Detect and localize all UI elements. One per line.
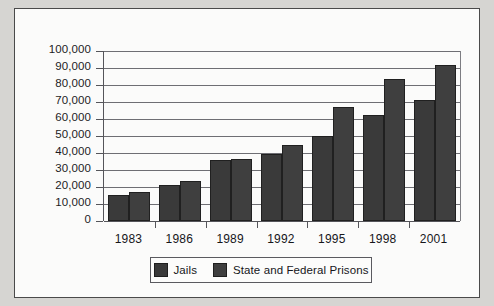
y-tick-label-80000: 80,000 xyxy=(15,77,91,89)
y-tick-mark-30000 xyxy=(96,170,103,171)
y-tick-label-90000: 90,000 xyxy=(15,60,91,72)
bar-jails-1983 xyxy=(108,195,129,221)
y-tick-mark-70000 xyxy=(96,102,103,103)
bar-state-and-federal-prisons-1992 xyxy=(282,145,303,221)
y-tick-label-50000: 50,000 xyxy=(15,128,91,140)
x-tick-mark-5 xyxy=(358,221,359,228)
bar-group-1992 xyxy=(257,51,308,221)
x-tick-label-1998: 1998 xyxy=(357,232,408,246)
y-tick-mark-20000 xyxy=(96,187,103,188)
legend-item-jails: Jails xyxy=(154,263,198,277)
y-tick-mark-100000 xyxy=(96,51,103,52)
bar-state-and-federal-prisons-1986 xyxy=(180,181,201,221)
y-tick-mark-10000 xyxy=(96,204,103,205)
bar-group-1983 xyxy=(104,51,155,221)
x-tick-mark-2 xyxy=(206,221,207,228)
bar-jails-2001 xyxy=(414,100,435,221)
y-tick-label-10000: 10,000 xyxy=(15,196,91,208)
y-tick-label-100000: 100,000 xyxy=(15,43,91,55)
bar-jails-1992 xyxy=(261,154,282,221)
y-tick-mark-40000 xyxy=(96,153,103,154)
bar-state-and-federal-prisons-1995 xyxy=(333,107,354,221)
legend-swatch-state-and-federal-prisons xyxy=(213,263,227,277)
y-tick-label-40000: 40,000 xyxy=(15,145,91,157)
y-tick-mark-60000 xyxy=(96,119,103,120)
legend-swatch-jails xyxy=(154,263,168,277)
x-tick-label-1983: 1983 xyxy=(103,232,154,246)
x-tick-label-1992: 1992 xyxy=(256,232,307,246)
y-tick-label-30000: 30,000 xyxy=(15,162,91,174)
y-tick-mark-80000 xyxy=(96,85,103,86)
legend-item-state-and-federal-prisons: State and Federal Prisons xyxy=(213,263,368,277)
y-tick-label-20000: 20,000 xyxy=(15,179,91,191)
bar-jails-1995 xyxy=(312,136,333,221)
x-tick-mark-6 xyxy=(409,221,410,228)
x-tick-label-1989: 1989 xyxy=(205,232,256,246)
y-tick-label-70000: 70,000 xyxy=(15,94,91,106)
x-tick-label-1995: 1995 xyxy=(306,232,357,246)
y-tick-label-60000: 60,000 xyxy=(15,111,91,123)
gridline-0 xyxy=(104,221,460,222)
bar-jails-1998 xyxy=(363,115,384,221)
bar-group-1986 xyxy=(155,51,206,221)
bar-state-and-federal-prisons-1998 xyxy=(384,79,405,221)
chart-legend: Jails State and Federal Prisons xyxy=(150,257,372,283)
x-tick-mark-3 xyxy=(257,221,258,228)
bar-state-and-federal-prisons-1983 xyxy=(129,192,150,221)
bar-group-1995 xyxy=(307,51,358,221)
bar-jails-1986 xyxy=(159,185,180,221)
x-tick-mark-4 xyxy=(307,221,308,228)
y-tick-mark-90000 xyxy=(96,68,103,69)
legend-label-state-and-federal-prisons: State and Federal Prisons xyxy=(233,264,368,276)
bar-group-2001 xyxy=(409,51,460,221)
x-tick-label-2001: 2001 xyxy=(408,232,459,246)
legend-label-jails: Jails xyxy=(174,264,198,276)
x-tick-mark-1 xyxy=(155,221,156,228)
bar-group-1989 xyxy=(206,51,257,221)
y-tick-label-0: 0 xyxy=(15,213,91,225)
y-tick-mark-0 xyxy=(96,221,103,222)
y-tick-mark-50000 xyxy=(96,136,103,137)
chart-figure: 010,00020,00030,00040,00050,00060,00070,… xyxy=(14,8,480,298)
plot-area xyxy=(103,51,461,221)
x-tick-label-1986: 1986 xyxy=(154,232,205,246)
bar-state-and-federal-prisons-1989 xyxy=(231,159,252,221)
bar-group-1998 xyxy=(358,51,409,221)
bar-jails-1989 xyxy=(210,160,231,221)
bar-state-and-federal-prisons-2001 xyxy=(435,65,456,221)
